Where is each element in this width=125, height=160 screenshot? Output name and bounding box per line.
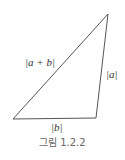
figure-caption: 그림 1.2.2	[39, 138, 86, 148]
label-a-plus-b: |a + b|	[25, 57, 55, 68]
label-b: |b|	[51, 122, 63, 133]
label-a: |a|	[106, 69, 118, 80]
triangle-diagram	[0, 0, 125, 160]
